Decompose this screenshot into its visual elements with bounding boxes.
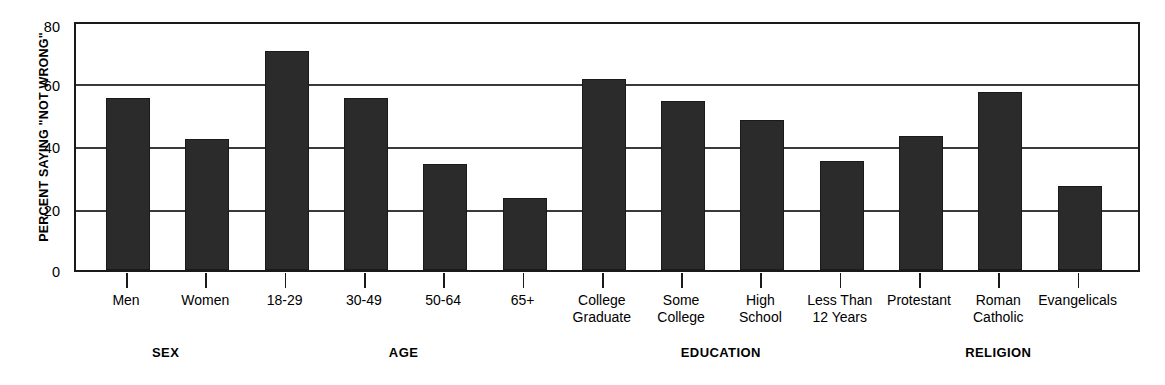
x-tick-4 bbox=[443, 273, 445, 288]
category-label-roman-catholic: Roman Catholic bbox=[953, 292, 1043, 326]
x-tick-2 bbox=[285, 273, 287, 288]
bar-women bbox=[185, 139, 229, 270]
y-tick-label-80: 80 bbox=[26, 20, 60, 34]
y-tick-label-20: 20 bbox=[26, 204, 60, 218]
category-label-18-29: 18-29 bbox=[240, 292, 330, 309]
category-label-50-64: 50-64 bbox=[398, 292, 488, 309]
category-label-less-than-12-years: Less Than 12 Years bbox=[795, 292, 885, 326]
category-label-women: Women bbox=[160, 292, 250, 309]
y-axis-title: PERCENT SAYING "NOT WRONG" bbox=[37, 7, 51, 267]
group-label-education: EDUCATION bbox=[641, 345, 801, 360]
group-label-sex: SEX bbox=[86, 345, 246, 360]
bar-college-graduate bbox=[582, 79, 626, 270]
bar-protestant bbox=[899, 136, 943, 270]
y-tick-label-40: 40 bbox=[26, 141, 60, 155]
bar-roman-catholic bbox=[978, 92, 1022, 270]
bar-chart: PERCENT SAYING "NOT WRONG" 80 60 40 20 0… bbox=[0, 0, 1165, 385]
group-label-religion: RELIGION bbox=[918, 345, 1078, 360]
bars-layer bbox=[76, 24, 1138, 270]
y-tick-label-0: 0 bbox=[26, 265, 60, 279]
x-tick-8 bbox=[760, 273, 762, 288]
group-label-age: AGE bbox=[324, 345, 484, 360]
bar-50-64 bbox=[423, 164, 467, 270]
x-tick-7 bbox=[681, 273, 683, 288]
bar-65+ bbox=[503, 198, 547, 270]
bar-men bbox=[106, 98, 150, 270]
bar-30-49 bbox=[344, 98, 388, 270]
bar-evangelicals bbox=[1058, 186, 1102, 270]
bar-some-college bbox=[661, 101, 705, 270]
plot-area bbox=[74, 22, 1140, 272]
x-tick-9 bbox=[840, 273, 842, 288]
category-label-men: Men bbox=[81, 292, 171, 309]
x-tick-12 bbox=[1078, 273, 1080, 288]
category-label-30-49: 30-49 bbox=[319, 292, 409, 309]
x-tick-3 bbox=[364, 273, 366, 288]
x-tick-0 bbox=[126, 273, 128, 288]
category-label-college-graduate: College Graduate bbox=[557, 292, 647, 326]
bar-less-than-12-years bbox=[820, 161, 864, 270]
category-label-some-college: Some College bbox=[636, 292, 726, 326]
category-label-protestant: Protestant bbox=[874, 292, 964, 309]
x-tick-5 bbox=[523, 273, 525, 288]
bar-18-29 bbox=[265, 51, 309, 270]
x-tick-11 bbox=[998, 273, 1000, 288]
category-label-65+: 65+ bbox=[478, 292, 568, 309]
x-tick-10 bbox=[919, 273, 921, 288]
y-tick-label-60: 60 bbox=[26, 79, 60, 93]
category-label-high-school: High School bbox=[715, 292, 805, 326]
x-tick-1 bbox=[205, 273, 207, 288]
bar-high-school bbox=[740, 120, 784, 270]
x-tick-6 bbox=[602, 273, 604, 288]
category-label-evangelicals: Evangelicals bbox=[1033, 292, 1123, 309]
